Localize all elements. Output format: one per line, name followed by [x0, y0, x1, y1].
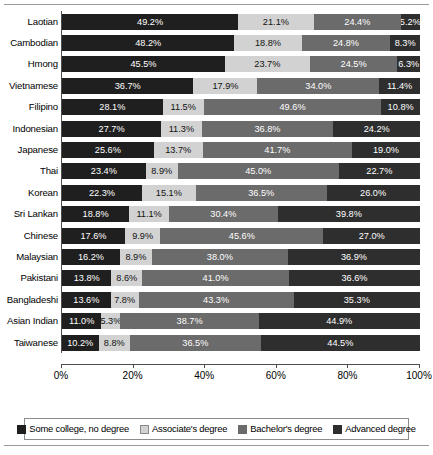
category-label: Vietnamese	[0, 81, 62, 91]
bar-segment: 24.4%	[314, 14, 401, 30]
category-label: Bangladeshi	[0, 295, 62, 305]
bar-segment: 39.8%	[278, 206, 420, 222]
bar-segment: 27.7%	[62, 121, 161, 137]
legend-swatch-icon	[17, 425, 26, 434]
x-axis-line	[61, 364, 420, 365]
segment-value-label: 23.7%	[254, 59, 280, 69]
segment-value-label: 35.3%	[344, 295, 370, 305]
bar-segment: 48.2%	[62, 35, 234, 51]
stacked-bar: 27.7%11.3%36.8%24.2%	[62, 121, 420, 137]
bar-segment: 11.1%	[129, 206, 169, 222]
bar-segment: 49.6%	[204, 99, 382, 115]
segment-value-label: 48.2%	[135, 38, 161, 48]
x-axis-tick-label: 60%	[266, 370, 286, 382]
bar-segment: 26.0%	[327, 185, 420, 201]
bar-segment: 41.7%	[203, 142, 352, 158]
bar-segment: 11.5%	[163, 99, 204, 115]
segment-value-label: 22.3%	[89, 188, 115, 198]
segment-value-label: 21.1%	[263, 17, 289, 27]
segment-value-label: 49.6%	[280, 102, 306, 112]
bar-segment: 13.6%	[62, 292, 111, 308]
segment-value-label: 22.7%	[366, 166, 392, 176]
category-label: Laotian	[0, 17, 62, 27]
bar-row: Vietnamese36.7%17.9%34.0%11.4%	[0, 75, 433, 96]
bar-segment: 22.7%	[339, 163, 420, 179]
category-label: Chinese	[0, 231, 62, 241]
segment-value-label: 9.9%	[132, 231, 153, 241]
chart-legend: Some college, no degreeAssociate's degre…	[24, 418, 409, 440]
bar-segment: 24.5%	[310, 56, 398, 72]
bar-row: Thai23.4%8.9%45.0%22.7%	[0, 161, 433, 182]
stacked-bar: 45.5%23.7%24.5%6.3%	[62, 56, 420, 72]
bar-segment: 21.1%	[238, 14, 314, 30]
legend-item[interactable]: Bachelor's degree	[238, 424, 322, 434]
x-axis-tick	[347, 364, 348, 368]
stacked-bar: 36.7%17.9%34.0%11.4%	[62, 78, 420, 94]
bar-segment: 11.0%	[62, 313, 101, 329]
stacked-bar: 22.3%15.1%36.5%26.0%	[62, 185, 420, 201]
segment-value-label: 49.2%	[137, 17, 163, 27]
category-label: Hmong	[0, 59, 62, 69]
segment-value-label: 36.5%	[248, 188, 274, 198]
legend-item[interactable]: Advanced degree	[333, 424, 416, 434]
bar-row: Bangladeshi13.6%7.8%43.3%35.3%	[0, 289, 433, 310]
segment-value-label: 23.4%	[91, 166, 117, 176]
stacked-bar: 49.2%21.1%24.4%5.2%	[62, 14, 420, 30]
segment-value-label: 44.5%	[327, 338, 353, 348]
segment-value-label: 34.0%	[305, 81, 331, 91]
bar-row: Filipino28.1%11.5%49.6%10.8%	[0, 97, 433, 118]
bar-segment: 49.2%	[62, 14, 238, 30]
bar-segment: 13.7%	[154, 142, 203, 158]
stacked-bar: 48.2%18.8%24.8%8.3%	[62, 35, 420, 51]
bar-row: Laotian49.2%21.1%24.4%5.2%	[0, 11, 433, 32]
segment-value-label: 15.1%	[156, 188, 182, 198]
legend-label: Associate's degree	[152, 424, 227, 434]
x-axis-tick-label: 20%	[123, 370, 143, 382]
segment-value-label: 24.8%	[333, 38, 359, 48]
bar-row: Taiwanese10.2%8.8%36.5%44.5%	[0, 332, 433, 353]
segment-value-label: 36.9%	[341, 252, 367, 262]
bar-segment: 44.5%	[261, 335, 420, 351]
bar-segment: 36.5%	[130, 335, 261, 351]
legend-label: Bachelor's degree	[250, 424, 322, 434]
x-axis-tick-label: 0%	[54, 370, 68, 382]
bar-segment: 5.2%	[401, 14, 420, 30]
segment-value-label: 8.8%	[104, 338, 125, 348]
bar-segment: 8.6%	[111, 270, 142, 286]
bar-segment: 19.0%	[352, 142, 420, 158]
segment-value-label: 17.6%	[80, 231, 106, 241]
bar-segment: 11.3%	[161, 121, 201, 137]
bar-segment: 8.9%	[146, 163, 178, 179]
bar-segment: 34.0%	[257, 78, 379, 94]
x-axis-tick	[276, 364, 277, 368]
bar-segment: 27.0%	[323, 228, 420, 244]
segment-value-label: 13.7%	[165, 145, 191, 155]
bar-segment: 45.5%	[62, 56, 225, 72]
category-label: Sri Lankan	[0, 209, 62, 219]
segment-value-label: 5.3%	[101, 316, 120, 326]
bar-segment: 6.3%	[397, 56, 420, 72]
segment-value-label: 45.0%	[245, 166, 271, 176]
bar-segment: 23.7%	[225, 56, 310, 72]
x-axis: 0%20%40%60%80%100%	[0, 364, 433, 390]
x-axis-tick	[61, 364, 62, 368]
legend-swatch-icon	[238, 425, 247, 434]
bottom-divider-rule	[4, 445, 429, 446]
segment-value-label: 38.0%	[207, 252, 233, 262]
segment-value-label: 7.8%	[114, 295, 135, 305]
segment-value-label: 13.8%	[74, 273, 100, 283]
segment-value-label: 44.9%	[326, 316, 352, 326]
segment-value-label: 24.5%	[341, 59, 367, 69]
bar-row: Hmong45.5%23.7%24.5%6.3%	[0, 54, 433, 75]
legend-swatch-icon	[333, 425, 342, 434]
bar-segment: 30.4%	[169, 206, 278, 222]
segment-value-label: 11.4%	[387, 81, 412, 91]
bar-segment: 11.4%	[379, 78, 420, 94]
bar-segment: 36.6%	[289, 270, 420, 286]
stacked-bar: 17.6%9.9%45.6%27.0%	[62, 228, 420, 244]
bar-segment: 15.1%	[142, 185, 196, 201]
legend-item[interactable]: Associate's degree	[140, 424, 227, 434]
bar-segment: 17.6%	[62, 228, 125, 244]
category-label: Malaysian	[0, 252, 62, 262]
legend-item[interactable]: Some college, no degree	[17, 424, 129, 434]
